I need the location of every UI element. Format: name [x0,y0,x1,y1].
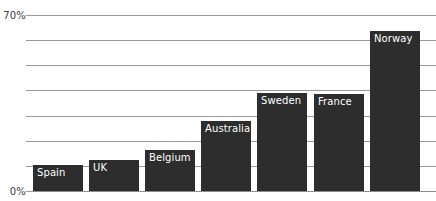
bar-spain[interactable]: Spain [33,165,83,191]
tick-stub-50 [26,65,33,66]
tick-stub-0 [26,191,33,192]
bars-layer: Spain UK Belgium Australia Sweden France… [33,0,436,201]
bar-label-sweden: Sweden [261,95,301,107]
bar-label-spain: Spain [37,167,65,179]
bar-label-australia: Australia [205,123,250,135]
tick-stub-20 [26,141,33,142]
tick-stub-40 [26,90,33,91]
bar-label-norway: Norway [374,33,413,45]
bar-label-belgium: Belgium [149,152,191,164]
y-axis-label-bottom: 0% [10,186,26,197]
y-axis-label-top: 70% [3,10,26,21]
bar-norway[interactable]: Norway [370,31,420,191]
bar-chart: 70% 0% Spain UK [0,0,436,201]
bar-uk[interactable]: UK [89,160,139,191]
bar-label-uk: UK [93,162,107,174]
tick-stub-70 [26,15,33,16]
tick-stub-30 [26,116,33,117]
bar-france[interactable]: France [314,94,364,191]
tick-stub-60 [26,40,33,41]
bar-label-france: France [318,96,352,108]
bar-australia[interactable]: Australia [201,121,251,191]
bar-sweden[interactable]: Sweden [257,93,307,191]
bar-belgium[interactable]: Belgium [145,150,195,191]
tick-stub-10 [26,166,33,167]
